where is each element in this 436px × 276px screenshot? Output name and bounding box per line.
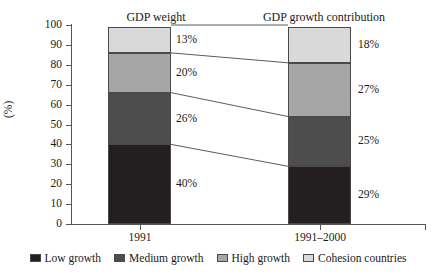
bar-segment-medium-growth[interactable] — [108, 93, 171, 145]
y-tick-70 — [66, 85, 71, 86]
bar-segment-high-growth[interactable] — [108, 53, 171, 93]
value-label-right-high-growth: 27% — [358, 84, 379, 96]
y-tick-label-100: 100 — [20, 19, 62, 31]
y-tick-100 — [66, 25, 71, 26]
stacked-bar-chart: (%) 1009080706050403020100 GDP weight GD… — [0, 0, 436, 276]
legend-item-high-growth[interactable]: High growth — [217, 252, 290, 264]
y-tick-label-90: 90 — [20, 39, 62, 51]
legend-swatch-icon — [303, 254, 314, 262]
value-label-right-medium-growth: 25% — [358, 135, 379, 147]
legend-item-label: Low growth — [45, 252, 102, 264]
y-tick-label-60: 60 — [20, 99, 62, 111]
y-tick-label-80: 80 — [20, 59, 62, 71]
y-tick-40 — [66, 144, 71, 145]
y-tick-label-20: 20 — [20, 178, 62, 190]
x-tick-1 — [320, 225, 321, 230]
value-label-left-high-growth: 20% — [176, 67, 197, 79]
bar-segment-medium-growth[interactable] — [288, 117, 351, 167]
bar-segment-low-growth[interactable] — [288, 166, 351, 224]
y-tick-label-10: 10 — [20, 198, 62, 210]
value-label-right-cohesion-countries: 18% — [358, 39, 379, 51]
y-tick-10 — [66, 204, 71, 205]
y-axis-line — [71, 24, 72, 225]
column-title-gdp-growth-contribution: GDP growth contribution — [244, 11, 404, 24]
bar-segment-high-growth[interactable] — [288, 63, 351, 117]
x-axis-label-1991: 1991 — [88, 231, 192, 243]
legend-item-cohesion-countries[interactable]: Cohesion countries — [303, 252, 406, 264]
legend-swatch-icon — [114, 254, 125, 262]
legend-swatch-icon — [30, 254, 41, 262]
bar-1991-2000[interactable] — [288, 25, 351, 224]
y-tick-label-30: 30 — [20, 158, 62, 170]
x-tick-0 — [140, 225, 141, 230]
legend-swatch-icon — [217, 254, 228, 262]
y-tick-label-50: 50 — [20, 119, 62, 131]
y-axis-title: (%) — [2, 101, 14, 118]
chart-legend: Low growthMedium growthHigh growthCohesi… — [0, 252, 436, 264]
y-tick-20 — [66, 184, 71, 185]
y-tick-label-40: 40 — [20, 138, 62, 150]
y-tick-label-70: 70 — [20, 79, 62, 91]
y-tick-60 — [66, 105, 71, 106]
legend-item-medium-growth[interactable]: Medium growth — [114, 252, 203, 264]
y-tick-label-0: 0 — [20, 218, 62, 230]
legend-item-label: High growth — [232, 252, 290, 264]
bar-segment-cohesion-countries[interactable] — [108, 27, 171, 53]
value-label-right-low-growth: 29% — [358, 189, 379, 201]
bar-segment-cohesion-countries[interactable] — [288, 27, 351, 63]
y-tick-80 — [66, 65, 71, 66]
value-label-left-low-growth: 40% — [176, 178, 197, 190]
y-tick-30 — [66, 164, 71, 165]
legend-item-label: Medium growth — [129, 252, 203, 264]
connector-line-3 — [171, 53, 288, 63]
value-label-left-medium-growth: 26% — [176, 113, 197, 125]
value-label-left-cohesion-countries: 13% — [176, 34, 197, 46]
bar-1991[interactable] — [108, 25, 171, 224]
connector-line-1 — [171, 144, 288, 166]
y-tick-90 — [66, 45, 71, 46]
y-tick-50 — [66, 125, 71, 126]
x-axis-line — [71, 224, 426, 225]
bar-segment-low-growth[interactable] — [108, 144, 171, 224]
x-tick-2 — [425, 225, 426, 230]
column-title-gdp-weight: GDP weight — [96, 11, 216, 24]
legend-item-label: Cohesion countries — [318, 252, 406, 264]
x-axis-label-1991-2000: 1991–2000 — [268, 231, 372, 243]
y-tick-0 — [66, 224, 71, 225]
legend-item-low-growth[interactable]: Low growth — [30, 252, 102, 264]
